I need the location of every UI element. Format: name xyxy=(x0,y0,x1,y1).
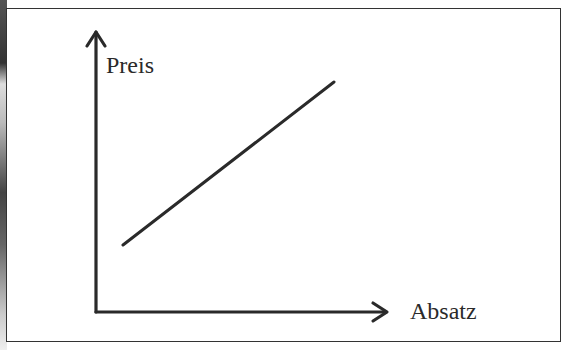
diagram-canvas xyxy=(0,0,569,350)
y-axis-label: Preis xyxy=(106,52,154,79)
x-axis-label: Absatz xyxy=(410,298,477,325)
supply-line xyxy=(123,82,334,245)
